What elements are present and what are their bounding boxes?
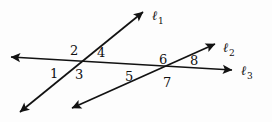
line-label-l1: ℓ1 <box>152 9 164 26</box>
line-l1-group <box>20 12 143 112</box>
line-label-l2-subscript: 2 <box>229 48 235 58</box>
angle-label-6: 6 <box>159 53 167 66</box>
line-label-l3-subscript: 3 <box>247 71 253 81</box>
lines-canvas <box>0 0 272 122</box>
line-label-l3-symbol: ℓ <box>241 63 246 78</box>
line-label-l2-symbol: ℓ <box>223 40 228 55</box>
line-l1 <box>20 12 143 112</box>
line-l3 <box>11 57 232 70</box>
line-label-l3: ℓ3 <box>241 64 253 81</box>
angle-label-2: 2 <box>70 44 78 57</box>
line-label-l1-subscript: 1 <box>158 16 164 26</box>
angle-label-8: 8 <box>190 54 198 67</box>
angle-label-7: 7 <box>163 76 171 89</box>
angle-label-4: 4 <box>97 46 105 59</box>
line-label-l2: ℓ2 <box>223 41 235 58</box>
angle-label-3: 3 <box>75 68 83 81</box>
line-l3-group <box>11 57 232 70</box>
line-label-l1-symbol: ℓ <box>152 8 157 23</box>
geometry-figure: 1 2 3 4 5 6 7 8 ℓ1 ℓ2 ℓ3 <box>0 0 272 122</box>
angle-label-1: 1 <box>50 67 58 80</box>
angle-label-5: 5 <box>125 70 133 83</box>
